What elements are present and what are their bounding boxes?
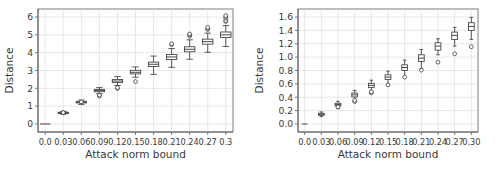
- x-tick-label: 0.27: [446, 137, 464, 147]
- outlier-point: [369, 90, 373, 94]
- outlier-point: [134, 80, 138, 84]
- y-tick-label: 5: [27, 29, 33, 40]
- y-axis-title: Distance: [3, 48, 15, 94]
- outlier-point: [453, 52, 457, 56]
- outlier-point: [403, 75, 407, 79]
- x-tick-label: 0.30: [462, 137, 480, 147]
- x-tick-label: 0.0: [298, 137, 311, 147]
- outlier-point: [97, 93, 101, 97]
- outlier-point: [336, 105, 340, 109]
- left-boxplot-svg: 01234560.00.030.060.090.120.150.180.210.…: [0, 0, 250, 177]
- y-tick-label: 0.0: [278, 118, 293, 129]
- x-tick-label: 0.15: [379, 137, 397, 147]
- y-axis-title: Distance: [253, 48, 265, 94]
- y-tick-label: 1.2: [278, 38, 293, 49]
- boxplot-figure: 01234560.00.030.060.090.120.150.180.210.…: [0, 0, 500, 177]
- outlier-point: [61, 111, 65, 115]
- y-tick-label: 0.2: [278, 105, 293, 116]
- x-axis-title: Attack norm bound: [338, 148, 439, 160]
- x-tick-label: 0.06: [72, 137, 90, 147]
- y-tick-label: 4: [27, 47, 33, 58]
- y-tick-label: 1.0: [278, 51, 293, 62]
- outlier-point: [188, 32, 192, 36]
- outlier-point: [170, 42, 174, 46]
- y-tick-label: 0: [27, 118, 33, 129]
- outlier-point: [79, 100, 83, 104]
- y-tick-label: 6: [27, 11, 33, 22]
- outlier-point: [469, 45, 473, 49]
- x-tick-label: 0.24: [181, 137, 199, 147]
- x-tick-label: 0.12: [108, 137, 126, 147]
- x-tick-label: 0.3: [219, 137, 232, 147]
- right-boxplot-svg: 0.00.20.40.60.81.01.21.41.60.00.030.060.…: [250, 0, 500, 177]
- x-tick-label: 0.09: [90, 137, 108, 147]
- outlier-point: [386, 83, 390, 87]
- outlier-point: [419, 68, 423, 72]
- y-axis-ticks: 0123456: [27, 11, 38, 129]
- x-tick-label: 0.18: [396, 137, 414, 147]
- outlier-point: [224, 14, 228, 18]
- x-tick-label: 0.15: [126, 137, 144, 147]
- x-tick-label: 0.18: [144, 137, 162, 147]
- y-tick-label: 0.8: [278, 65, 293, 76]
- y-tick-label: 1.4: [278, 25, 293, 36]
- x-tick-label: 0.0: [39, 137, 52, 147]
- x-axis-title: Attack norm bound: [85, 148, 186, 160]
- x-tick-label: 0.21: [412, 137, 430, 147]
- x-tick-label: 0.06: [329, 137, 347, 147]
- outlier-point: [116, 86, 120, 90]
- y-tick-label: 3: [27, 65, 33, 76]
- outlier-point: [353, 98, 357, 102]
- y-axis-ticks: 0.00.20.40.60.81.01.21.41.6: [278, 11, 298, 129]
- x-axis-ticks: 0.00.030.060.090.120.150.180.210.240.270…: [298, 132, 480, 147]
- x-tick-label: 0.27: [199, 137, 217, 147]
- x-tick-label: 0.12: [362, 137, 380, 147]
- x-tick-label: 0.03: [312, 137, 330, 147]
- outlier-point: [206, 25, 210, 29]
- y-tick-label: 1: [27, 100, 33, 111]
- outlier-point: [436, 60, 440, 64]
- chart-panel-left: 01234560.00.030.060.090.120.150.180.210.…: [0, 0, 250, 177]
- chart-panel-right: 0.00.20.40.60.81.01.21.41.60.00.030.060.…: [250, 0, 500, 177]
- x-tick-label: 0.03: [54, 137, 72, 147]
- y-tick-label: 1.6: [278, 11, 293, 22]
- y-tick-label: 0.6: [278, 78, 293, 89]
- x-tick-label: 0.24: [429, 137, 447, 147]
- x-axis-ticks: 0.00.030.060.090.120.150.180.210.240.270…: [39, 132, 233, 147]
- y-tick-label: 2: [27, 83, 33, 94]
- x-tick-label: 0.09: [346, 137, 364, 147]
- y-tick-label: 0.4: [278, 92, 293, 103]
- x-tick-label: 0.21: [162, 137, 180, 147]
